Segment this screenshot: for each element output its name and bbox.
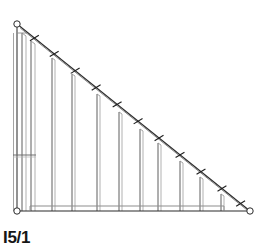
drawing-background bbox=[0, 0, 262, 251]
truss-elevation-drawing bbox=[0, 0, 262, 251]
base-left-pivot bbox=[14, 208, 20, 214]
figure-page: I5/1 bbox=[0, 0, 262, 251]
base-right-pivot bbox=[247, 208, 253, 214]
figure-caption: I5/1 bbox=[3, 228, 30, 248]
apex-pivot bbox=[14, 21, 20, 27]
